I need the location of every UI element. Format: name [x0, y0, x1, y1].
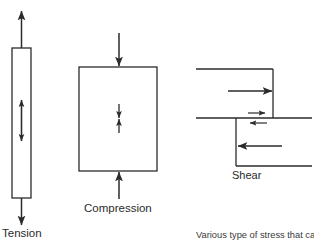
shear-diagram: [196, 69, 312, 166]
tension-label: Tension: [2, 228, 42, 240]
compression-diagram: [79, 33, 157, 199]
stress-diagram-figure: Tension Compression Shear Various type o…: [0, 0, 314, 245]
stress-diagram-drawing: [0, 0, 314, 245]
shear-label: Shear: [232, 170, 261, 181]
tension-diagram: [12, 11, 31, 225]
compression-label: Compression: [84, 203, 152, 215]
figure-caption: Various type of stress that can be: [196, 231, 314, 240]
compression-block: [79, 67, 157, 171]
